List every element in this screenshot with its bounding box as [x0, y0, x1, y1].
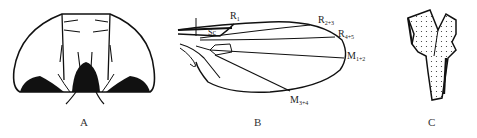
panel-a: A — [0, 0, 160, 138]
structure-illustration — [360, 0, 477, 138]
panel-label-c: C — [428, 116, 435, 128]
panel-label-a: A — [80, 116, 88, 128]
panel-c: C — [360, 0, 477, 138]
vein-label-r4-5: R4+5 — [338, 28, 354, 40]
vein-label-r1: R1 — [230, 10, 240, 22]
panel-label-b: B — [254, 116, 261, 128]
panel-b: R1 Sc R2+3 R4+5 M1+2 M3+4 B — [160, 0, 360, 138]
vein-label-m3-4: M3+4 — [290, 94, 308, 106]
vein-label-r2-3: R2+3 — [318, 14, 334, 26]
vein-label-sc: Sc — [208, 28, 216, 37]
